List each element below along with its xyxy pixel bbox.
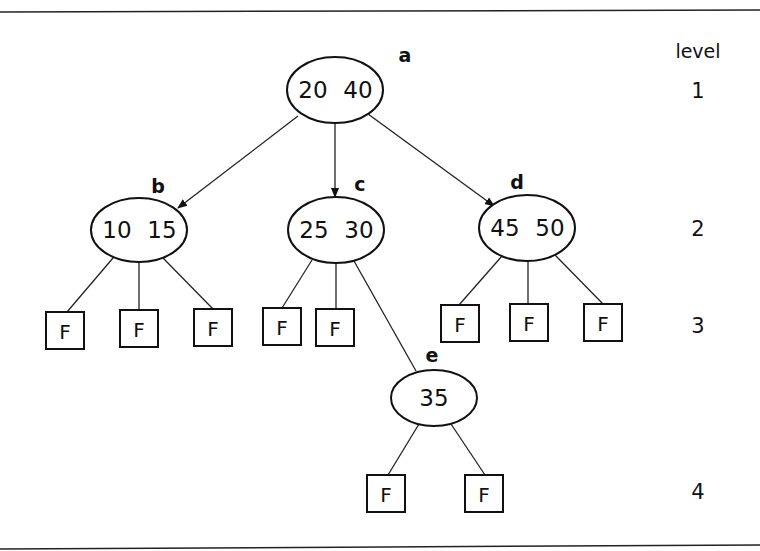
node-key: 25: [299, 217, 328, 243]
leaf-label: F: [133, 318, 145, 342]
edge-b-leaf: [163, 258, 213, 309]
leaf-node: F: [120, 310, 158, 347]
leaf-label: F: [597, 312, 609, 336]
arrow-a-d: [368, 114, 494, 206]
leaf-label: F: [478, 483, 490, 507]
node-key: 20: [298, 77, 327, 103]
leaves: FFFFFFFFFF: [46, 304, 622, 512]
nodes: 2040a1015b2530c4550d35e: [91, 44, 575, 426]
edge-d-leaf: [555, 255, 603, 304]
leaf-node: F: [316, 309, 354, 346]
tree-diagram: 2040a1015b2530c4550d35e FFFFFFFFFF level…: [0, 0, 760, 551]
edge-e-leaf: [388, 424, 419, 475]
node-label: a: [399, 44, 412, 66]
top-rule: [0, 10, 760, 12]
edges: [67, 114, 603, 475]
leaf-node: F: [367, 475, 405, 512]
leaf-node: F: [46, 312, 84, 349]
node-label: c: [354, 173, 365, 195]
node-key: 50: [535, 215, 564, 241]
node-a: 2040a: [287, 44, 411, 123]
node-key: 15: [147, 217, 176, 243]
leaf-label: F: [380, 483, 392, 507]
node-label: b: [151, 175, 165, 197]
edge-e-leaf: [451, 424, 485, 475]
leaf-node: F: [510, 304, 548, 341]
node-key: 40: [343, 77, 372, 103]
leaf-node: F: [194, 309, 232, 346]
leaf-node: F: [441, 305, 479, 342]
node-key: 10: [102, 217, 131, 243]
node-label: d: [510, 171, 524, 193]
arrow-a-b: [178, 116, 298, 208]
leaf-label: F: [454, 313, 466, 337]
bottom-rule: [0, 545, 760, 549]
leaf-node: F: [465, 475, 503, 512]
edge-d-leaf: [459, 256, 502, 305]
leaf-label: F: [523, 312, 535, 336]
level-column: level1234: [675, 40, 720, 504]
node-e: 35e: [391, 344, 477, 426]
node-c: 2530c: [288, 173, 384, 263]
node-d: 4550d: [479, 171, 575, 261]
edge-c-e: [354, 261, 416, 371]
edge-c-leaf: [282, 260, 312, 308]
node-key: 30: [344, 217, 373, 243]
level-heading: level: [675, 40, 720, 62]
level-number: 1: [691, 79, 704, 103]
leaf-node: F: [263, 308, 301, 345]
node-key: 35: [419, 385, 448, 411]
node-b: 1015b: [91, 175, 187, 262]
leaf-label: F: [276, 316, 288, 340]
level-number: 2: [691, 217, 704, 241]
node-label: e: [426, 344, 439, 366]
leaf-label: F: [207, 317, 219, 341]
leaf-node: F: [584, 304, 622, 341]
level-number: 3: [691, 314, 704, 338]
level-number: 4: [691, 480, 704, 504]
leaf-label: F: [329, 317, 341, 341]
edge-b-leaf: [67, 258, 113, 312]
node-key: 45: [490, 215, 519, 241]
leaf-label: F: [59, 320, 71, 344]
